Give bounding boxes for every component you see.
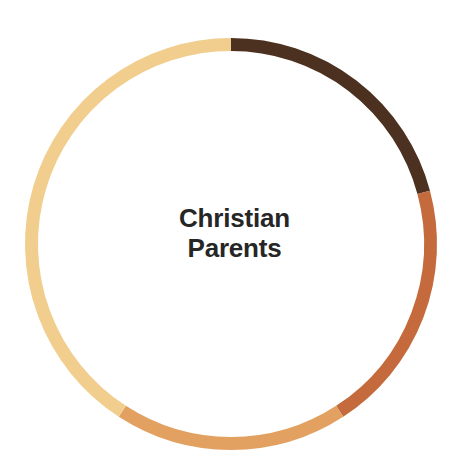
donut-segment-4[interactable] [32,45,231,412]
donut-segment-2[interactable] [340,192,431,411]
donut-segment-1[interactable] [231,45,424,193]
donut-chart: Christian Parents [0,0,469,465]
donut-segment-3[interactable] [122,411,339,443]
donut-ring-svg [0,0,469,465]
donut-segments [32,45,431,444]
